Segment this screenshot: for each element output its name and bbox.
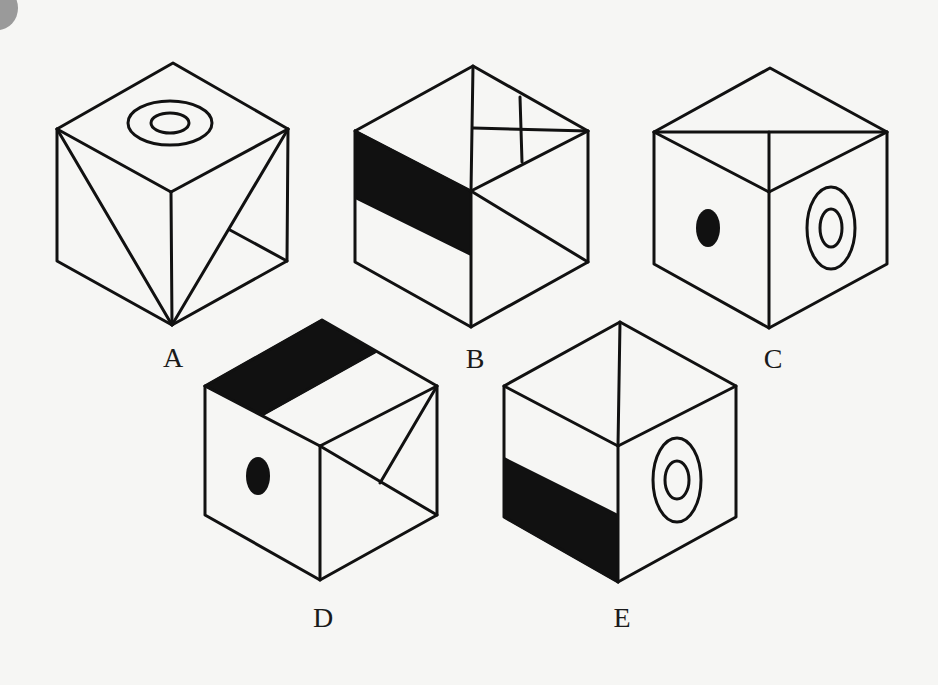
outer-ring-icon xyxy=(807,187,855,269)
cube-e[interactable] xyxy=(504,322,736,582)
top-horizontal-line xyxy=(473,128,588,131)
black-dot-icon xyxy=(696,209,720,247)
black-band xyxy=(504,458,618,582)
black-dot-icon xyxy=(246,457,270,495)
label-d: D xyxy=(313,604,333,632)
label-a: A xyxy=(163,344,183,372)
inner-ring-icon xyxy=(665,461,689,499)
cube-b[interactable] xyxy=(355,66,588,327)
label-e: E xyxy=(613,604,630,632)
inner-ring-icon xyxy=(151,113,189,133)
outer-ring-icon xyxy=(653,438,701,522)
cube-a[interactable] xyxy=(57,63,288,325)
left-diagonal xyxy=(57,129,172,325)
label-b: B xyxy=(466,345,485,373)
right-diagonal xyxy=(172,129,288,325)
cube-d[interactable] xyxy=(205,320,437,580)
inner-ring-icon xyxy=(820,209,842,247)
top-vertical-line xyxy=(618,322,620,446)
cube-c[interactable] xyxy=(654,68,887,328)
label-c: C xyxy=(764,345,783,373)
top-cross-line xyxy=(520,97,522,162)
cube-puzzle-figure: A B C D E xyxy=(0,0,938,685)
outer-ring-icon xyxy=(128,101,212,145)
right-branch-line xyxy=(230,230,287,261)
black-band xyxy=(355,131,471,255)
right-diagonal xyxy=(471,191,588,262)
right-diagonal xyxy=(320,446,437,515)
